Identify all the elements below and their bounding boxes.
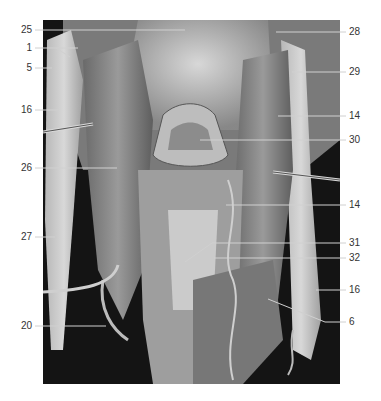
label-14-upper: 14 [349, 111, 360, 121]
label-25: 25 [10, 25, 32, 35]
label-28: 28 [349, 27, 360, 37]
label-26: 26 [10, 163, 32, 173]
label-30: 30 [349, 135, 360, 145]
label-31: 31 [349, 238, 360, 248]
label-1: 1 [10, 43, 32, 53]
leader-lines [0, 0, 381, 401]
label-16-left: 16 [10, 105, 32, 115]
label-5: 5 [10, 63, 32, 73]
label-27: 27 [10, 232, 32, 242]
label-29: 29 [349, 67, 360, 77]
label-20: 20 [10, 321, 32, 331]
label-32: 32 [349, 253, 360, 263]
label-16-right: 16 [349, 285, 360, 295]
label-6: 6 [349, 317, 355, 327]
label-14-lower: 14 [349, 200, 360, 210]
